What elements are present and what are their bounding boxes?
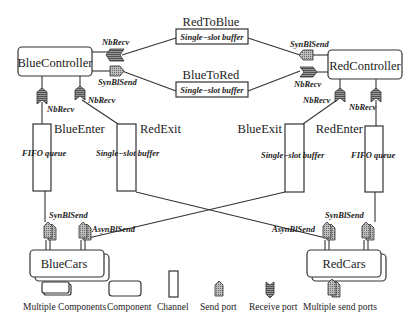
receive-port-icon xyxy=(106,49,124,61)
receive-port-icon xyxy=(371,88,381,102)
channel-red-enter: RedEnter FIFO queue xyxy=(316,122,396,192)
legend-multiple-components-icon xyxy=(42,282,71,295)
red-cars-label: RedCars xyxy=(322,257,365,271)
legend-receive-port-icon xyxy=(266,282,274,298)
legend-receive-port: Receive port xyxy=(249,302,298,312)
channel-blue-exit: BlueExit Single−slot buffer xyxy=(238,122,325,192)
channel-red-to-blue: RedToBlue Single−slot buffer xyxy=(176,15,248,44)
blue-controller-label: BlueController xyxy=(18,56,94,70)
legend-multiple-send-ports-icon xyxy=(328,279,340,297)
channel-blue-enter: BlueEnter FIFO queue xyxy=(21,122,106,191)
legend-channel-icon xyxy=(169,271,178,297)
red-to-blue-name: RedToBlue xyxy=(183,15,240,29)
blue-cars-label: BlueCars xyxy=(41,257,88,271)
blue-cars: BlueCars xyxy=(30,250,109,281)
legend-channel: Channel xyxy=(157,302,189,312)
multiple-send-ports-icon xyxy=(79,222,91,240)
bc-nbrecv-left-label: NbRecv xyxy=(46,104,75,114)
bc-nbrecv-label: NbRecv xyxy=(101,37,130,47)
architecture-diagram: BlueController RedController RedToBlue S… xyxy=(0,0,417,330)
receive-port-icon xyxy=(300,67,317,77)
blue-enter-name: BlueEnter xyxy=(54,122,106,136)
multiple-send-ports-icon xyxy=(323,222,335,240)
send-port-icon xyxy=(299,50,313,60)
bc-synblsend-label: SynBlSend xyxy=(98,77,137,87)
rc-nbrecv-right-label: NbRecv xyxy=(348,102,377,112)
red-to-blue-type: Single−slot buffer xyxy=(180,32,244,42)
bc-nbrecv-right-label: NbRecv xyxy=(87,95,116,105)
red-exit-type: Single−slot buffer xyxy=(96,148,160,158)
bcars-asynblsend-label: AsynBlSend xyxy=(91,224,136,234)
rc-synblsend-label: SynBlSend xyxy=(290,39,329,49)
receive-port-icon xyxy=(75,86,85,100)
legend-multiple-send-ports: Multiple send ports xyxy=(303,302,377,312)
rcars-synblsend-label: SynBlSend xyxy=(325,210,364,220)
channel-blue-to-red: BlueToRed Single−slot buffer xyxy=(176,68,248,97)
red-exit-name: RedExit xyxy=(140,122,181,136)
blue-exit-type: Single−slot buffer xyxy=(261,150,325,160)
red-enter-name: RedEnter xyxy=(316,122,364,136)
multiple-send-ports-icon xyxy=(362,222,374,240)
blue-exit-name: BlueExit xyxy=(238,122,283,136)
receive-port-icon xyxy=(335,88,345,102)
red-cars: RedCars xyxy=(307,250,386,281)
blue-to-red-name: BlueToRed xyxy=(183,68,241,82)
legend-component: Component xyxy=(107,302,152,312)
legend-component-icon xyxy=(109,281,141,296)
red-controller: RedController xyxy=(328,50,402,79)
blue-to-red-type: Single−slot buffer xyxy=(180,85,244,95)
red-controller-label: RedController xyxy=(329,59,401,73)
rcars-asynblsend-label: AsynBlSend xyxy=(271,224,316,234)
blue-enter-type: FIFO queue xyxy=(21,148,66,158)
red-enter-type: FIFO queue xyxy=(350,150,395,160)
bcars-synblsend-label: SynBlSend xyxy=(49,210,88,220)
legend-send-port: Send port xyxy=(200,302,237,312)
receive-port-icon xyxy=(37,88,47,104)
blue-controller: BlueController xyxy=(18,47,94,76)
legend-send-port-icon xyxy=(215,281,223,296)
rc-nbrecv-left-label: NbRecv xyxy=(302,95,331,105)
legend-multiple-components: Multiple Components xyxy=(23,302,106,312)
rc-nbrecv-label: NbRecv xyxy=(293,79,322,89)
multiple-send-ports-icon xyxy=(44,222,56,240)
send-port-icon xyxy=(110,66,124,76)
channel-red-exit: RedExit Single−slot buffer xyxy=(96,122,181,191)
